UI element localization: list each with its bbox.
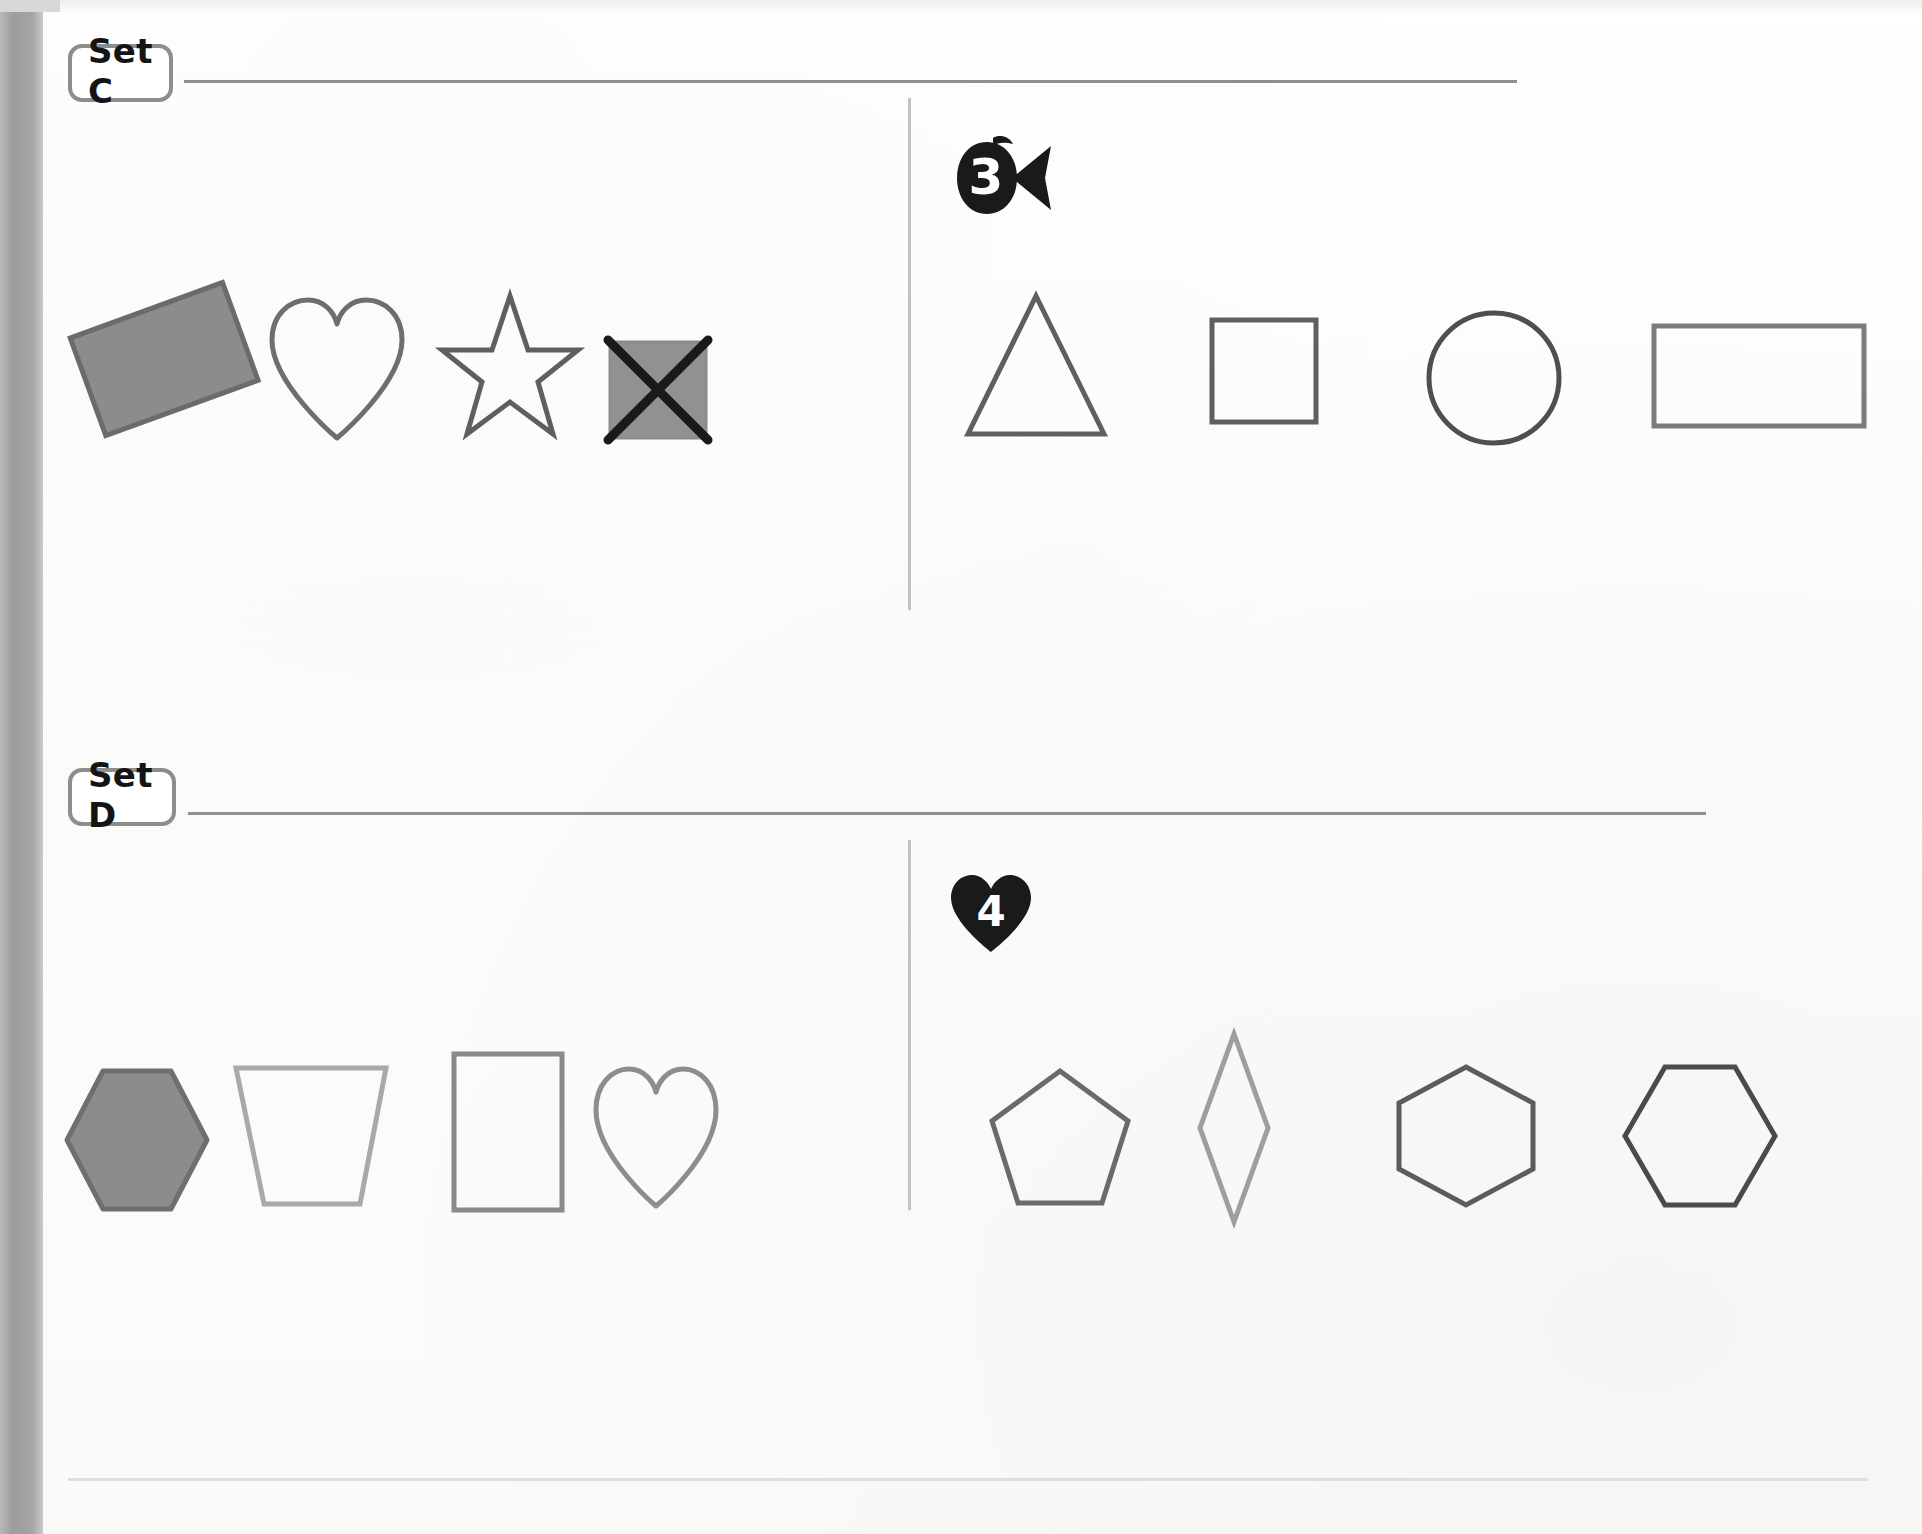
set-d-marker-heart-icon: 4	[948, 872, 1034, 956]
set-label-d-text: Set D	[88, 755, 156, 835]
set-d-shape-heart-outline	[590, 1062, 722, 1210]
paper-texture	[43, 0, 1922, 1534]
set-d-shape-diamond-narrow-outline	[1196, 1030, 1272, 1226]
set-d-marker-number: 4	[976, 887, 1005, 936]
set-d-shape-hexagon-filled	[62, 1066, 212, 1214]
scan-edge-gutter	[0, 0, 43, 1534]
set-c-shape-rectangle-tilted-filled	[62, 280, 262, 445]
set-d-shape-pentagon-outline	[988, 1066, 1132, 1208]
set-c-shape-circle-outline	[1424, 308, 1564, 448]
set-c-marker-number: 3	[969, 148, 1004, 206]
set-c-shape-triangle-outline	[962, 288, 1110, 440]
next-section-rule	[68, 1478, 1868, 1481]
set-c-shape-square-outline	[1208, 316, 1320, 426]
set-label-c-text: Set C	[88, 31, 153, 111]
set-c-shape-heart-outline	[264, 292, 410, 442]
set-d-column-divider	[908, 840, 911, 1210]
set-c-header-rule	[184, 80, 1517, 83]
set-label-d: Set D	[68, 768, 176, 826]
set-d-shape-hexagon-flat-outline	[1620, 1062, 1780, 1210]
worksheet-page: Set C 3	[0, 0, 1922, 1534]
set-d-shape-hexagon-pointy-outline	[1394, 1062, 1538, 1210]
set-d-header-rule	[188, 812, 1706, 815]
set-c-shape-star-outline	[440, 288, 580, 436]
set-c-marker-fish-icon: 3	[955, 132, 1063, 224]
set-d-shape-rectangle-outline	[450, 1050, 566, 1214]
set-d-shape-trapezoid-outline	[228, 1062, 394, 1210]
set-c-shape-rectangle-outline	[1650, 322, 1868, 432]
set-label-c: Set C	[68, 44, 173, 102]
scan-edge-corner	[0, 0, 60, 12]
set-c-column-divider	[908, 98, 911, 610]
set-c-shape-square-filled-crossed	[606, 338, 710, 442]
page-top-shadow	[0, 0, 1922, 16]
